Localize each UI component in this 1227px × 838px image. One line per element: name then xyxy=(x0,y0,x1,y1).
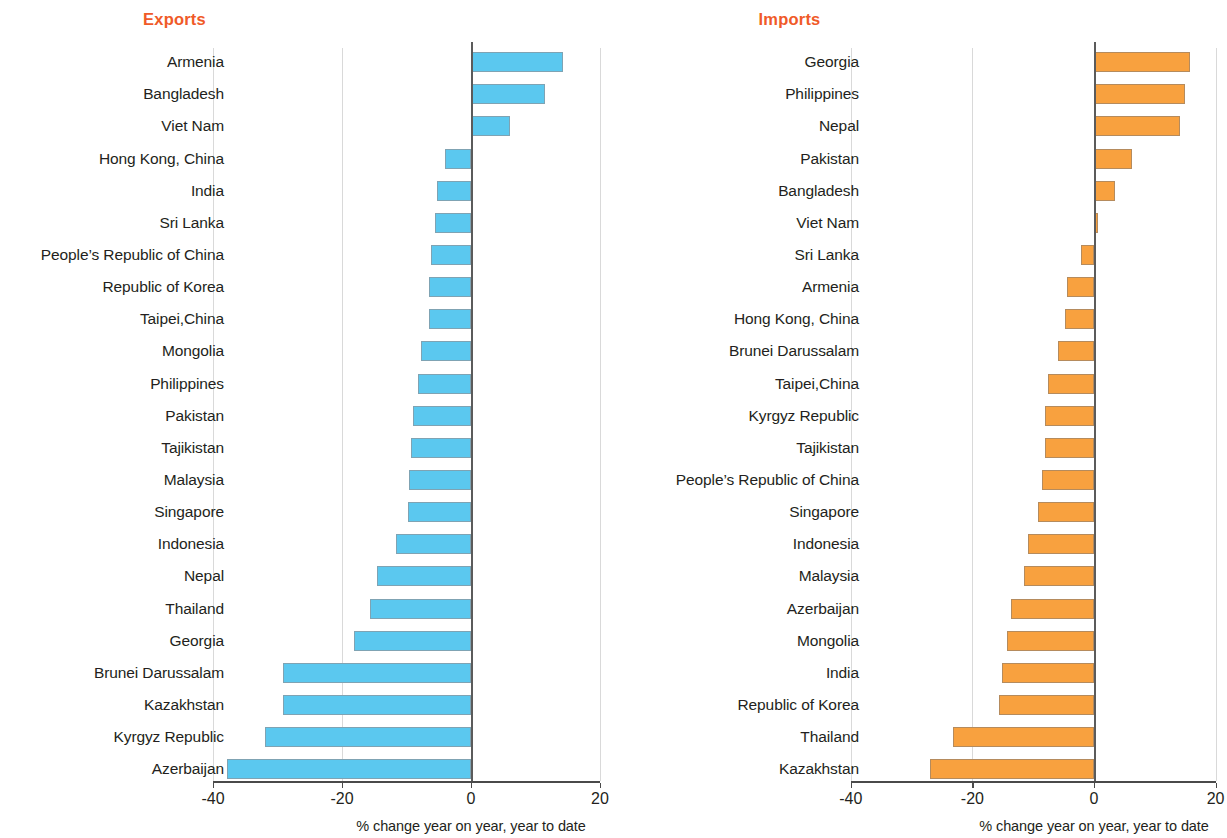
bar-exports xyxy=(429,277,471,297)
bar-exports xyxy=(411,438,471,458)
chart-row: Malaysia xyxy=(0,464,613,496)
chart-row: Georgia xyxy=(0,625,613,657)
bar-imports xyxy=(930,759,1094,779)
chart-row: Hong Kong, China xyxy=(613,303,1226,335)
category-label: Brunei Darussalam xyxy=(0,664,224,682)
bar-exports xyxy=(445,149,471,169)
bar-imports xyxy=(999,695,1094,715)
bar-exports xyxy=(283,695,471,715)
category-label: Nepal xyxy=(603,117,859,135)
bar-exports xyxy=(435,213,471,233)
bar-imports xyxy=(1065,309,1094,329)
bar-imports xyxy=(1045,438,1094,458)
x-axis-line xyxy=(213,781,600,783)
category-label: Malaysia xyxy=(603,567,859,585)
panel-imports: Imports GeorgiaPhilippinesNepalPakistanB… xyxy=(613,0,1226,838)
bar-exports xyxy=(471,116,510,136)
category-label: Sri Lanka xyxy=(603,246,859,264)
category-label: Kazakhstan xyxy=(603,760,859,778)
category-label: Mongolia xyxy=(0,342,224,360)
bar-imports xyxy=(1038,502,1094,522)
bar-exports xyxy=(421,341,471,361)
x-axis-tick xyxy=(1094,783,1095,788)
category-label: Tajikistan xyxy=(603,439,859,457)
bar-imports xyxy=(1094,116,1180,136)
bar-imports xyxy=(1081,245,1094,265)
bar-imports xyxy=(1002,663,1094,683)
chart-row: Tajikistan xyxy=(613,432,1226,464)
bar-exports xyxy=(377,566,471,586)
chart-row: Thailand xyxy=(613,721,1226,753)
chart-row: Armenia xyxy=(613,271,1226,303)
bar-imports xyxy=(1007,631,1094,651)
category-label: People’s Republic of China xyxy=(603,471,859,489)
category-label: Mongolia xyxy=(603,632,859,650)
category-label: Azerbaijan xyxy=(603,600,859,618)
figure-root: Exports ArmeniaBangladeshViet NamHong Ko… xyxy=(0,0,1227,838)
x-axis-tick xyxy=(851,783,852,788)
category-label: Philippines xyxy=(603,85,859,103)
bar-imports xyxy=(1094,84,1185,104)
category-label: Indonesia xyxy=(603,535,859,553)
chart-row: Philippines xyxy=(0,368,613,400)
chart-row: Singapore xyxy=(0,496,613,528)
category-label: Azerbaijan xyxy=(0,760,224,778)
chart-row: Pakistan xyxy=(613,142,1226,174)
chart-row: Singapore xyxy=(613,496,1226,528)
chart-row: Nepal xyxy=(613,110,1226,142)
x-axis-tick-label: -20 xyxy=(312,790,372,808)
plot-area-exports: ArmeniaBangladeshViet NamHong Kong, Chin… xyxy=(0,0,613,838)
category-label: Republic of Korea xyxy=(603,696,859,714)
chart-row: Brunei Darussalam xyxy=(613,335,1226,367)
category-label: Nepal xyxy=(0,567,224,585)
bar-imports xyxy=(1042,470,1094,490)
category-label: Indonesia xyxy=(0,535,224,553)
chart-row: Sri Lanka xyxy=(613,239,1226,271)
x-axis-tick xyxy=(1216,783,1217,788)
chart-row: Philippines xyxy=(613,78,1226,110)
category-label: Bangladesh xyxy=(0,85,224,103)
bar-imports xyxy=(1045,406,1094,426)
category-label: Thailand xyxy=(603,728,859,746)
chart-row: Taipei,China xyxy=(0,303,613,335)
chart-row: Pakistan xyxy=(0,400,613,432)
category-label: Republic of Korea xyxy=(0,278,224,296)
chart-row: Armenia xyxy=(0,46,613,78)
panel-exports: Exports ArmeniaBangladeshViet NamHong Ko… xyxy=(0,0,613,838)
x-axis-tick xyxy=(600,783,601,788)
bar-exports xyxy=(471,52,563,72)
category-label: Tajikistan xyxy=(0,439,224,457)
category-label: Viet Nam xyxy=(603,214,859,232)
chart-row: People’s Republic of China xyxy=(0,239,613,271)
chart-row: India xyxy=(0,175,613,207)
chart-row: Thailand xyxy=(0,593,613,625)
x-axis-tick-label: 0 xyxy=(1064,790,1124,808)
chart-row: Sri Lanka xyxy=(0,207,613,239)
x-axis-tick xyxy=(972,783,973,788)
bar-imports xyxy=(1067,277,1094,297)
category-label: Hong Kong, China xyxy=(603,310,859,328)
category-label: Armenia xyxy=(0,53,224,71)
bar-exports xyxy=(408,502,471,522)
category-label: Philippines xyxy=(0,375,224,393)
plot-area-imports: GeorgiaPhilippinesNepalPakistanBanglades… xyxy=(613,0,1226,838)
zero-axis-line xyxy=(471,42,473,781)
chart-row: India xyxy=(613,657,1226,689)
category-label: Georgia xyxy=(603,53,859,71)
x-axis-tick-label: 0 xyxy=(441,790,501,808)
chart-row: Bangladesh xyxy=(613,175,1226,207)
zero-axis-line xyxy=(1094,42,1096,781)
x-axis-line xyxy=(851,781,1216,783)
bar-exports xyxy=(227,759,471,779)
chart-row: Kyrgyz Republic xyxy=(613,400,1226,432)
x-axis-tick-label: -20 xyxy=(942,790,1002,808)
category-label: Pakistan xyxy=(0,407,224,425)
chart-row: Bangladesh xyxy=(0,78,613,110)
chart-row: Hong Kong, China xyxy=(0,142,613,174)
chart-row: Tajikistan xyxy=(0,432,613,464)
bar-imports xyxy=(1011,599,1094,619)
category-label: Taipei,China xyxy=(0,310,224,328)
chart-row: Taipei,China xyxy=(613,368,1226,400)
bar-imports xyxy=(1048,374,1094,394)
bar-exports xyxy=(370,599,471,619)
